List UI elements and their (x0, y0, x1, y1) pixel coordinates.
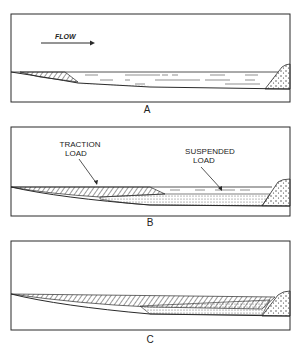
dam-b (262, 179, 290, 206)
dam-a (265, 64, 290, 89)
panel-b-label: B (147, 217, 154, 228)
panel-c: C (11, 241, 290, 345)
panel-a: FLOW A (11, 14, 290, 115)
traction-pointer-arrow-icon (79, 159, 98, 185)
panel-a-label: A (144, 104, 151, 115)
traction-label-line1: TRACTION (60, 140, 101, 149)
panel-c-frame (11, 241, 290, 330)
flow-label: FLOW (55, 33, 77, 40)
suspended-load-deposit (100, 194, 270, 206)
suspended-label-line2: LOAD (193, 156, 215, 165)
suspended-label-line1: SUSPENDED (185, 147, 235, 156)
flow-arrow-icon (41, 41, 95, 46)
delta-sediment-diagram: FLOW A TRACTION LOAD (0, 0, 302, 347)
delta-wedge-a (20, 72, 78, 82)
panel-c-label: C (146, 334, 153, 345)
panel-b: TRACTION LOAD SUSPENDED LOAD B (11, 127, 290, 228)
traction-label-line2: LOAD (65, 149, 87, 158)
